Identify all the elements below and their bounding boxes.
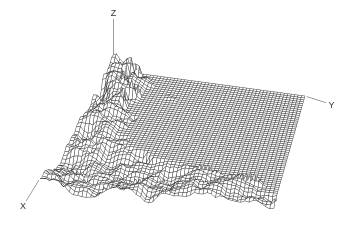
y-axis-label: Y <box>328 100 334 109</box>
surface-mesh-canvas <box>0 0 352 237</box>
wireframe-3d-surface-figure: Z Y X <box>0 0 352 237</box>
z-axis-label: Z <box>111 8 117 17</box>
x-axis-label: X <box>20 202 26 211</box>
